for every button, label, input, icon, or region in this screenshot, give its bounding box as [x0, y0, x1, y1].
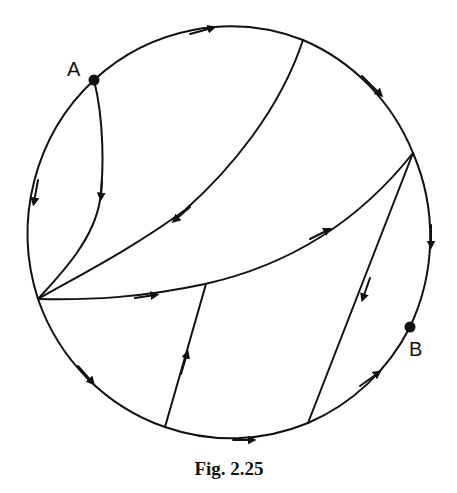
arrow-bottom-up-icon	[181, 354, 187, 374]
point-a	[89, 75, 100, 86]
arrow-bottom-left-icon	[78, 366, 92, 382]
trajectory-right-down	[308, 153, 413, 423]
point-b	[405, 322, 416, 333]
trajectories	[38, 40, 413, 427]
trajectory-a-to-left	[38, 80, 102, 299]
arrow-a-down-icon	[101, 180, 102, 197]
trajectory-bottom-up	[165, 284, 206, 427]
circle-arrows	[34, 28, 431, 440]
flow-diagram: A B Fig. 2.25	[0, 0, 457, 493]
arrow-top-right-icon	[362, 76, 380, 94]
label-b: B	[409, 338, 422, 360]
trajectory-left-to-right	[38, 153, 413, 299]
figure-caption: Fig. 2.25	[194, 458, 263, 479]
label-a: A	[67, 58, 81, 80]
arrow-mid-left-icon	[175, 207, 190, 220]
arrow-bottom-right-icon	[360, 373, 378, 386]
